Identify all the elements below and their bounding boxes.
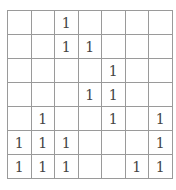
grid-cell[interactable] <box>126 59 150 83</box>
grid-cell[interactable] <box>126 107 150 131</box>
grid-cell[interactable]: 1 <box>149 155 173 179</box>
puzzle-grid: 111111111111111111 <box>7 10 173 179</box>
grid-cell[interactable]: 1 <box>55 11 79 35</box>
grid-cell[interactable] <box>55 107 79 131</box>
grid-cell[interactable] <box>126 83 150 107</box>
grid-cell[interactable] <box>55 83 79 107</box>
grid-cell[interactable] <box>126 11 150 35</box>
grid-cell[interactable]: 1 <box>8 131 32 155</box>
grid-cell[interactable] <box>8 83 32 107</box>
grid-cell[interactable] <box>79 131 103 155</box>
grid-cell[interactable]: 1 <box>32 155 56 179</box>
grid-cell[interactable] <box>32 59 56 83</box>
grid-cell[interactable] <box>79 155 103 179</box>
grid-cell[interactable]: 1 <box>126 155 150 179</box>
grid-cell[interactable]: 1 <box>149 107 173 131</box>
grid-cell[interactable] <box>79 59 103 83</box>
grid-cell[interactable]: 1 <box>55 35 79 59</box>
grid-cell[interactable]: 1 <box>55 131 79 155</box>
grid-cell[interactable] <box>149 11 173 35</box>
grid-cell[interactable]: 1 <box>102 83 126 107</box>
grid-cell[interactable]: 1 <box>55 155 79 179</box>
grid-cell[interactable]: 1 <box>32 107 56 131</box>
grid-cell[interactable]: 1 <box>79 35 103 59</box>
grid-cell[interactable]: 1 <box>79 83 103 107</box>
grid-cell[interactable] <box>32 11 56 35</box>
grid-cell[interactable] <box>102 131 126 155</box>
grid-cell[interactable] <box>32 83 56 107</box>
grid-cell[interactable]: 1 <box>102 107 126 131</box>
grid-cell[interactable] <box>55 59 79 83</box>
grid-cell[interactable] <box>149 83 173 107</box>
grid-cell[interactable] <box>102 155 126 179</box>
grid-cell[interactable] <box>79 107 103 131</box>
grid-cell[interactable] <box>126 131 150 155</box>
grid-cell[interactable] <box>126 35 150 59</box>
grid-cell[interactable]: 1 <box>149 131 173 155</box>
grid-cell[interactable] <box>8 59 32 83</box>
grid-cell[interactable]: 1 <box>32 131 56 155</box>
grid-cell[interactable] <box>79 11 103 35</box>
grid-cell[interactable] <box>32 35 56 59</box>
grid-cell[interactable]: 1 <box>102 59 126 83</box>
grid-cell[interactable] <box>8 107 32 131</box>
grid-cell[interactable] <box>8 11 32 35</box>
grid-cell[interactable]: 1 <box>8 155 32 179</box>
grid-cell[interactable] <box>8 35 32 59</box>
grid-cell[interactable] <box>102 11 126 35</box>
grid-cell[interactable] <box>102 35 126 59</box>
grid-cell[interactable] <box>149 35 173 59</box>
grid-cell[interactable] <box>149 59 173 83</box>
